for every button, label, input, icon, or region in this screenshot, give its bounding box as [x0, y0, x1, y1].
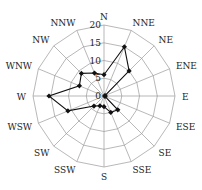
direction-label-ssw: SSW: [54, 165, 76, 175]
direction-label-w: W: [17, 92, 27, 102]
direction-label-sse: SSE: [133, 165, 152, 175]
direction-label-sw: SW: [34, 148, 50, 158]
direction-label-wsw: WSW: [7, 122, 32, 132]
direction-label-se: SE: [159, 148, 172, 158]
direction-labels: NNNENEENEEESESESSESSSWSWWSWWWNWNWNNW: [6, 12, 197, 182]
direction-label-nw: NW: [32, 35, 50, 45]
direction-label-nne: NNE: [133, 18, 155, 28]
radial-tick-label: 15: [90, 38, 102, 48]
radial-tick-label: 10: [90, 56, 102, 66]
direction-label-wnw: WNW: [6, 61, 33, 71]
direction-label-n: N: [100, 12, 108, 22]
radial-tick-label: 20: [90, 20, 102, 30]
radial-tick-label: 5: [95, 73, 101, 83]
direction-label-ese: ESE: [176, 122, 195, 132]
radial-tick-labels: 05101520: [90, 20, 102, 101]
radial-tick-label: 0: [95, 91, 101, 101]
wind-rose-chart: 05101520 NNNENEENEEESESESSESSSWSWWSWWWNW…: [0, 0, 202, 190]
data-point-ssw: [97, 103, 102, 108]
direction-label-ene: ENE: [176, 61, 197, 71]
direction-label-e: E: [182, 92, 189, 102]
direction-label-s: S: [101, 172, 107, 182]
spoke-nw: [54, 46, 104, 96]
data-point-wnw: [77, 83, 82, 88]
spoke-sw: [54, 96, 104, 146]
direction-label-ne: NE: [159, 35, 173, 45]
direction-label-nnw: NNW: [50, 18, 76, 28]
